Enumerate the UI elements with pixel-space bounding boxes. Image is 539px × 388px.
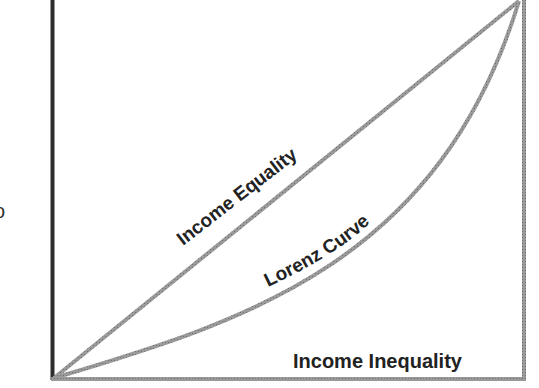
lorenz-chart: Income Equality Lorenz Curve Income Ineq… [0,0,539,388]
equality-label: Income Equality [173,143,302,249]
inequality-label: Income Inequality [293,350,463,372]
lorenz-label: Lorenz Curve [261,210,374,291]
equality-line [54,1,519,378]
lorenz-curve-figure: o Income Equality Lorenz Curve Income In… [0,0,539,388]
